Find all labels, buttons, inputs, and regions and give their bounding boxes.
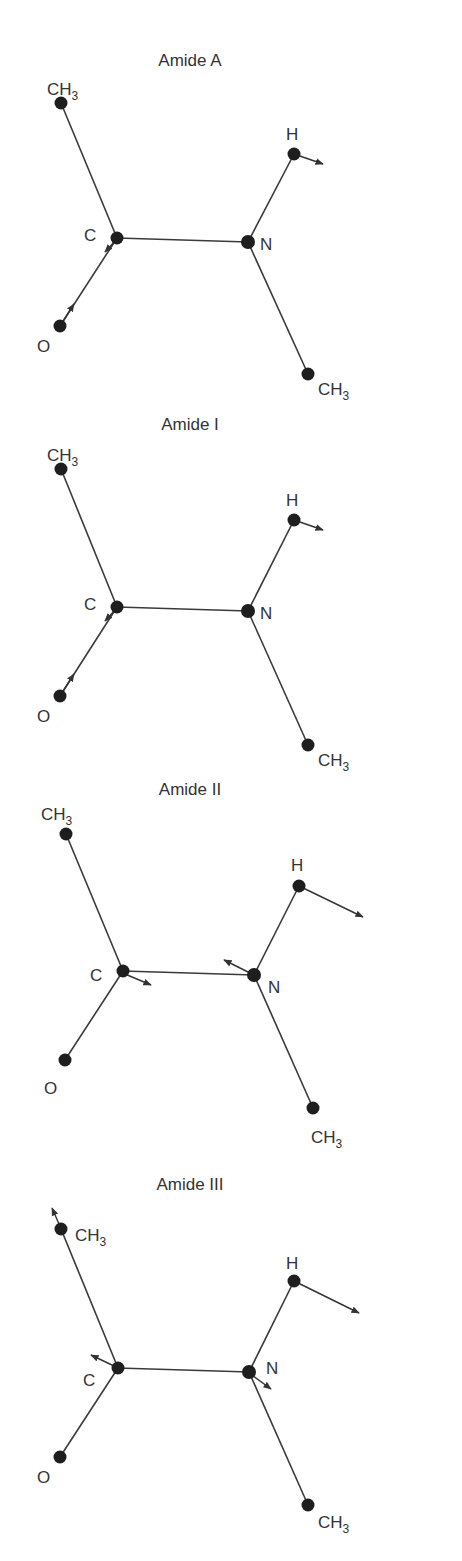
label-n: N — [260, 235, 272, 254]
label-ch3-bottom: CH3 — [318, 1513, 350, 1536]
panel-amide-i: Amide I CH3 C N H O CH3 — [37, 415, 350, 774]
atom-o — [54, 690, 67, 703]
label-o: O — [37, 337, 50, 356]
panel-title: Amide III — [156, 1175, 223, 1194]
label-o: O — [37, 707, 50, 726]
displacement-arrow-h — [294, 1281, 359, 1313]
label-h: H — [291, 856, 303, 875]
atom-c — [117, 965, 130, 978]
atom-ch3-top — [55, 1223, 68, 1236]
label-n: N — [260, 604, 272, 623]
atom-o — [59, 1054, 72, 1067]
displacement-arrow-n — [224, 960, 250, 973]
label-h: H — [286, 491, 298, 510]
bond-ch3-c — [61, 103, 117, 238]
atom-ch3-bottom — [302, 1499, 315, 1512]
bond-n-ch3 — [248, 611, 308, 745]
atom-c — [112, 1362, 125, 1375]
label-ch3-bottom: CH3 — [318, 751, 350, 774]
label-o: O — [37, 1468, 50, 1487]
atom-n — [241, 235, 255, 249]
panel-amide-a: Amide A CH3 C N H O CH3 — [37, 51, 350, 403]
atom-c — [111, 601, 124, 614]
label-ch3-bottom: CH3 — [311, 1128, 343, 1151]
bond-n-h — [254, 886, 299, 975]
bond-n-h — [248, 520, 294, 611]
bond-n-ch3 — [254, 975, 313, 1108]
atom-ch3-bottom — [302, 739, 315, 752]
displacement-arrow-c — [125, 974, 151, 985]
atom-h — [288, 514, 301, 527]
atom-o — [54, 1451, 67, 1464]
atom-ch3-bottom — [307, 1102, 320, 1115]
amide-modes-diagram: Amide A CH3 C N H O CH3 Amide I — [0, 0, 462, 1561]
label-n: N — [268, 978, 280, 997]
atom-h — [288, 148, 301, 161]
bond-ch3-c — [61, 1229, 118, 1368]
label-ch3-top: CH3 — [75, 1226, 107, 1249]
panel-amide-iii: Amide III CH3 C N H O CH3 — [37, 1175, 359, 1536]
label-ch3-bottom: CH3 — [318, 380, 350, 403]
bond-c-n — [118, 1368, 249, 1372]
atom-h — [293, 880, 306, 893]
panel-title: Amide I — [161, 415, 219, 434]
atom-n — [242, 1365, 256, 1379]
label-c: C — [90, 966, 102, 985]
displacement-arrow-ch3 — [52, 1208, 59, 1224]
label-c: C — [84, 595, 96, 614]
atom-o — [54, 320, 67, 333]
label-n: N — [266, 1359, 278, 1378]
bond-n-ch3 — [248, 242, 308, 374]
bond-n-h — [248, 154, 294, 242]
displacement-arrow-c — [91, 1355, 114, 1366]
bond-n-ch3 — [249, 1372, 308, 1505]
label-h: H — [286, 125, 298, 144]
atom-ch3-bottom — [302, 368, 315, 381]
label-h: H — [286, 1254, 298, 1273]
bond-ch3-c — [66, 834, 123, 971]
atom-c — [111, 232, 124, 245]
label-c: C — [84, 226, 96, 245]
panel-title: Amide II — [159, 780, 221, 799]
label-o: O — [44, 1079, 57, 1098]
bond-c-n — [117, 607, 248, 611]
label-ch3-top: CH3 — [41, 805, 73, 828]
atom-h — [288, 1275, 301, 1288]
bond-ch3-c — [61, 469, 117, 607]
atom-n — [241, 604, 255, 618]
atom-ch3-top — [60, 828, 73, 841]
panel-title: Amide A — [158, 51, 222, 70]
displacement-arrow-h — [299, 886, 363, 917]
bond-c-n — [117, 238, 248, 242]
panel-amide-ii: Amide II CH3 C N H O CH3 — [41, 780, 363, 1151]
atom-n — [247, 968, 261, 982]
label-c: C — [83, 1371, 95, 1390]
bond-c-n — [123, 971, 254, 975]
